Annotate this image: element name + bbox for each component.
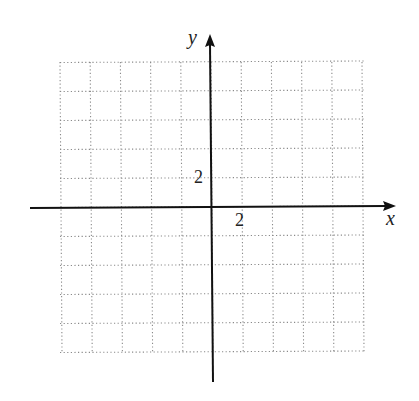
x-axis [30, 201, 396, 211]
x-tick-label-2: 2 [235, 210, 244, 231]
y-tick-label-2: 2 [194, 167, 203, 188]
coordinate-plane [0, 0, 419, 401]
y-axis-label: y [188, 26, 197, 49]
x-axis-label: x [386, 207, 395, 230]
